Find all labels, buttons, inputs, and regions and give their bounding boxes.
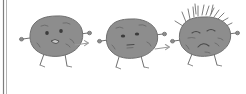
blob-sequence-illustration — [0, 0, 246, 94]
stage-1-body — [30, 16, 83, 57]
stage-2-right-eye — [135, 33, 139, 36]
stage-1-right-eye — [59, 29, 63, 33]
figure-canvas — [0, 0, 246, 94]
stage-2-left-eye — [121, 35, 125, 38]
stage-3-body — [179, 17, 230, 56]
stage-2-body — [106, 19, 157, 58]
stage-2-mouth — [127, 45, 134, 46]
stage-1-left-eye — [45, 31, 49, 35]
